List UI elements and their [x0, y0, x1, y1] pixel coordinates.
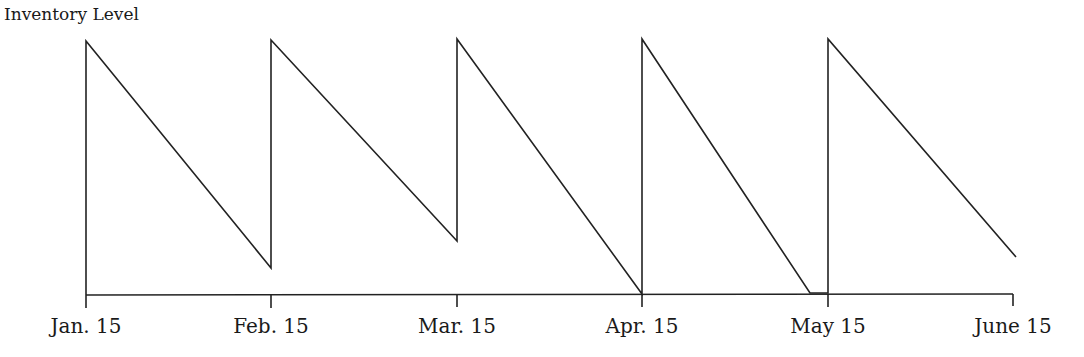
- x-axis: [86, 294, 1013, 295]
- x-tick-label: May 15: [790, 314, 866, 338]
- x-tick-label: Jan. 15: [51, 314, 122, 338]
- inventory-chart: [0, 0, 1084, 357]
- x-tick-label: June 15: [974, 314, 1051, 338]
- x-tick-label: Apr. 15: [606, 314, 679, 338]
- inventory-line: [86, 39, 1016, 295]
- x-tick-label: Feb. 15: [233, 314, 309, 338]
- x-tick-label: Mar. 15: [418, 314, 496, 338]
